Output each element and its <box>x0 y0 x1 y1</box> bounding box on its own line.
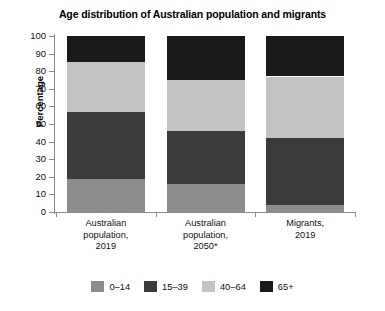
y-axis-tick-label: 50 <box>20 119 46 129</box>
x-axis-tick <box>156 212 157 217</box>
x-axis-category-label-line: population, <box>151 230 261 242</box>
stacked-bar[interactable] <box>167 36 245 212</box>
bar-group[interactable] <box>167 36 245 212</box>
legend-label: 0–14 <box>109 282 130 292</box>
legend-swatch-icon <box>260 281 273 292</box>
bar-segment-4064[interactable] <box>67 62 145 111</box>
y-axis-tick <box>49 194 55 195</box>
bar-segment-014[interactable] <box>266 205 344 212</box>
legend-swatch-icon <box>202 281 215 292</box>
y-axis-tick <box>49 124 55 125</box>
bar-segment-65+[interactable] <box>266 36 344 76</box>
x-axis-category-label-line: Australian <box>51 218 161 230</box>
y-axis-tick-label: 40 <box>20 137 46 147</box>
x-axis-tick <box>355 212 356 217</box>
y-axis-tick <box>49 89 55 90</box>
x-axis-category-label: Australianpopulation,2019 <box>51 218 161 253</box>
x-axis-tick <box>255 212 256 217</box>
legend-swatch-icon <box>91 281 104 292</box>
bar-segment-1539[interactable] <box>67 112 145 179</box>
legend-item[interactable]: 40–64 <box>202 281 246 292</box>
bar-group[interactable] <box>266 36 344 212</box>
plot-area <box>56 36 355 212</box>
y-axis-tick <box>49 159 55 160</box>
chart-legend: 0–1415–3940–6465+ <box>0 281 385 292</box>
chart-container: Age distribution of Australian populatio… <box>0 0 385 311</box>
bar-segment-1539[interactable] <box>167 131 245 184</box>
x-axis-category-label: Migrants,2019 <box>250 218 360 241</box>
y-axis-tick-label: 10 <box>20 189 46 199</box>
bar-segment-4064[interactable] <box>266 77 344 139</box>
y-axis-tick-label: 30 <box>20 154 46 164</box>
y-axis-tick <box>49 71 55 72</box>
y-axis-tick <box>49 212 55 213</box>
bar-segment-1539[interactable] <box>266 138 344 205</box>
x-axis-category-label-line: 2050* <box>151 241 261 253</box>
bar-segment-4064[interactable] <box>167 80 245 131</box>
x-axis-category-label-line: Migrants, <box>250 218 360 230</box>
legend-item[interactable]: 0–14 <box>91 281 130 292</box>
legend-item[interactable]: 65+ <box>260 281 294 292</box>
bar-group[interactable] <box>67 36 145 212</box>
legend-label: 15–39 <box>162 282 188 292</box>
y-axis-tick-label: 90 <box>20 49 46 59</box>
stacked-bar[interactable] <box>67 36 145 212</box>
bar-segment-014[interactable] <box>167 184 245 212</box>
bar-segment-65+[interactable] <box>67 36 145 62</box>
y-axis-tick-label: 80 <box>20 66 46 76</box>
y-axis-tick-label: 0 <box>20 207 46 217</box>
y-axis-tick <box>49 106 55 107</box>
legend-label: 65+ <box>278 282 294 292</box>
x-axis-tick <box>56 212 57 217</box>
y-axis-tick-label: 70 <box>20 84 46 94</box>
y-axis-tick <box>49 36 55 37</box>
bar-segment-65+[interactable] <box>167 36 245 80</box>
chart-title: Age distribution of Australian populatio… <box>0 8 385 20</box>
stacked-bar[interactable] <box>266 36 344 212</box>
x-axis-category-label: Australianpopulation,2050* <box>151 218 261 253</box>
x-axis-category-label-line: 2019 <box>51 241 161 253</box>
y-axis-tick <box>49 177 55 178</box>
y-axis-tick-label: 100 <box>20 31 46 41</box>
y-axis-tick <box>49 54 55 55</box>
y-axis-tick-label: 20 <box>20 172 46 182</box>
x-axis-category-label-line: Australian <box>151 218 261 230</box>
y-axis-tick-label: 60 <box>20 101 46 111</box>
legend-item[interactable]: 15–39 <box>144 281 188 292</box>
x-axis-category-label-line: population, <box>51 230 161 242</box>
legend-swatch-icon <box>144 281 157 292</box>
x-axis-category-label-line: 2019 <box>250 230 360 242</box>
legend-label: 40–64 <box>220 282 246 292</box>
bar-segment-014[interactable] <box>67 179 145 212</box>
y-axis-tick <box>49 142 55 143</box>
x-axis-line <box>54 212 356 213</box>
